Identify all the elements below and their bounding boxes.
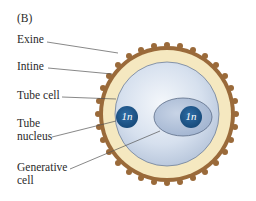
tube-nucleus-label-line2: nucleus <box>17 130 52 143</box>
tube-nucleus-ploidy: 1n <box>119 110 135 123</box>
generative-cell-label-line2: cell <box>17 174 34 187</box>
generative-nucleus-ploidy: 1n <box>183 110 199 123</box>
tube-cell-label: Tube cell <box>17 89 60 102</box>
exine-label: Exine <box>17 33 44 46</box>
intine-label: Intine <box>17 60 44 73</box>
tube-nucleus-label-line1: Tube <box>17 117 40 130</box>
generative-cell-label-line1: Generative <box>17 161 67 174</box>
panel-label: (B) <box>17 12 32 25</box>
